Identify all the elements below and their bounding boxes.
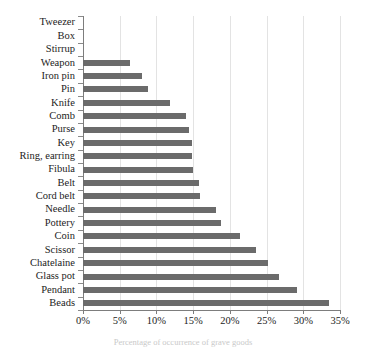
bar-row: [83, 270, 340, 283]
y-tick-label: Chatelaine: [0, 256, 79, 269]
bar-scissor: [83, 247, 256, 253]
bar-weapon: [83, 60, 130, 66]
bar-row: [83, 110, 340, 123]
bar-cord-belt: [83, 193, 200, 199]
x-tick-mark: [120, 310, 121, 314]
bar-row: [83, 283, 340, 296]
y-tick-label: Key: [0, 136, 79, 149]
y-tick-label: Purse: [0, 123, 79, 136]
y-tick-label: Comb: [0, 110, 79, 123]
x-tick-label: 25%: [257, 316, 276, 327]
y-tick-label: Scissor: [0, 243, 79, 256]
x-tick-mark: [267, 310, 268, 314]
bar-row: [83, 176, 340, 189]
x-tick-label: 15%: [184, 316, 203, 327]
y-tick-label: Stirrup: [0, 43, 79, 56]
bar-coin: [83, 233, 240, 239]
bar-pottery: [83, 220, 221, 226]
y-tick-label: Iron pin: [0, 69, 79, 82]
y-tick-label: Knife: [0, 96, 79, 109]
y-tick-label: Box: [0, 29, 79, 42]
bar-beads: [83, 300, 329, 306]
x-tick-mark: [230, 310, 231, 314]
y-tick-label: Needle: [0, 203, 79, 216]
y-tick-label: Pendant: [0, 283, 79, 296]
y-tick-label: Coin: [0, 230, 79, 243]
bar-row: [83, 203, 340, 216]
bar-chart-figure: TweezerBoxStirrupWeaponIron pinPinKnifeC…: [0, 0, 366, 348]
x-tick-mark: [156, 310, 157, 314]
x-tick-mark: [83, 310, 84, 314]
bar-row: [83, 256, 340, 269]
figure-caption: Percentage of occurrence of grave goods: [0, 338, 366, 347]
bar-row: [83, 150, 340, 163]
bar-row: [83, 163, 340, 176]
bar-series: [83, 16, 340, 310]
y-tick-label: Belt: [0, 176, 79, 189]
y-tick-label: Ring, earring: [0, 150, 79, 163]
bar-belt: [83, 180, 199, 186]
bar-row: [83, 83, 340, 96]
y-tick-label: Weapon: [0, 56, 79, 69]
bar-row: [83, 96, 340, 109]
bar-iron-pin: [83, 73, 142, 79]
y-tick-label: Pin: [0, 83, 79, 96]
bar-row: [83, 297, 340, 310]
bar-row: [83, 136, 340, 149]
y-tick-label: Pottery: [0, 216, 79, 229]
bar-row: [83, 16, 340, 29]
bar-comb: [83, 113, 186, 119]
y-tick-label: Cord belt: [0, 190, 79, 203]
bar-ring-earring: [83, 153, 192, 159]
bar-row: [83, 69, 340, 82]
y-tick-label: Glass pot: [0, 270, 79, 283]
x-tick-label: 5%: [113, 316, 127, 327]
bar-row: [83, 230, 340, 243]
bar-pin: [83, 86, 148, 92]
x-tick-label: 0%: [76, 316, 90, 327]
bar-purse: [83, 127, 189, 133]
y-tick-label: Fibula: [0, 163, 79, 176]
bar-key: [83, 140, 192, 146]
plot-area: [83, 16, 340, 310]
bar-row: [83, 243, 340, 256]
bar-needle: [83, 207, 216, 213]
y-axis-labels: TweezerBoxStirrupWeaponIron pinPinKnifeC…: [0, 16, 79, 310]
bar-fibula: [83, 167, 193, 173]
bar-row: [83, 123, 340, 136]
x-tick-label: 35%: [330, 316, 349, 327]
bar-row: [83, 216, 340, 229]
x-tick-label: 20%: [220, 316, 239, 327]
x-tick-mark: [340, 310, 341, 314]
bar-knife: [83, 100, 170, 106]
gridline-35: [340, 16, 341, 310]
bar-row: [83, 56, 340, 69]
bar-row: [83, 29, 340, 42]
bar-row: [83, 43, 340, 56]
bar-chatelaine: [83, 260, 268, 266]
x-tick-label: 30%: [294, 316, 313, 327]
y-tick-label: Beads: [0, 297, 79, 310]
bar-glass-pot: [83, 274, 279, 280]
bar-pendant: [83, 287, 297, 293]
x-tick-mark: [303, 310, 304, 314]
bar-row: [83, 190, 340, 203]
x-tick-mark: [193, 310, 194, 314]
x-tick-label: 10%: [147, 316, 166, 327]
y-tick-label: Tweezer: [0, 16, 79, 29]
